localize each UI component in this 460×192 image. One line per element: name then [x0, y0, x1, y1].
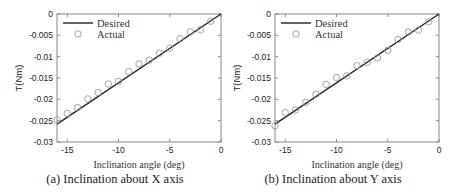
y-tick-label: -0.01	[252, 52, 272, 62]
actual-point	[126, 68, 132, 74]
y-tick-label: -0.005	[247, 30, 271, 40]
legend-label-desired: Desired	[315, 18, 348, 29]
x-tick-label: -15	[61, 145, 74, 155]
actual-point	[354, 62, 360, 68]
y-tick-label: 0	[48, 9, 53, 19]
chart-panel-y-axis: 0-0.005-0.01-0.015-0.02-0.025-0.03-15-10…	[218, 0, 448, 192]
y-tick-label: -0.015	[29, 73, 53, 83]
caption-y-axis: (b) Inclination about Y axis	[218, 172, 448, 187]
y-tick-label: 0	[266, 9, 271, 19]
y-tick-label: -0.01	[34, 52, 54, 62]
actual-point	[105, 81, 111, 87]
legend-label-actual: Actual	[315, 29, 343, 40]
x-tick-label: -15	[279, 145, 292, 155]
actual-point	[85, 96, 91, 102]
x-tick-label: -5	[384, 145, 392, 155]
desired-line	[57, 14, 221, 124]
legend-label-actual: Actual	[97, 29, 125, 40]
y-tick-label: -0.03	[252, 137, 272, 147]
y-tick-label: -0.02	[34, 94, 54, 104]
x-tick-label: 0	[437, 145, 442, 155]
legend-label-desired: Desired	[97, 18, 130, 29]
actual-point	[333, 74, 339, 80]
actual-point	[95, 89, 101, 95]
x-tick-label: -5	[166, 145, 174, 155]
legend: DesiredActual	[281, 18, 348, 41]
legend-circle-icon	[293, 31, 299, 37]
plot-frame	[57, 14, 221, 142]
y-tick-label: -0.025	[29, 116, 53, 126]
y-tick-label: -0.005	[29, 30, 53, 40]
plot-frame	[275, 14, 439, 142]
x-axis-label: Inclination angle (deg)	[311, 159, 402, 171]
y-tick-label: -0.03	[34, 137, 54, 147]
y-axis-label: T(Nm)	[13, 65, 24, 92]
chart-plot-x-axis: 0-0.005-0.01-0.015-0.02-0.025-0.03-15-10…	[0, 0, 230, 172]
x-tick-label: -10	[112, 145, 125, 155]
y-tick-label: -0.025	[247, 116, 271, 126]
actual-point	[64, 110, 70, 116]
y-tick-label: -0.02	[252, 94, 272, 104]
legend-circle-icon	[75, 31, 81, 37]
x-axis-label: Inclination angle (deg)	[93, 159, 184, 171]
actual-point	[323, 81, 329, 87]
actual-point	[136, 61, 142, 67]
actual-point	[282, 109, 288, 115]
caption-x-axis: (a) Inclination about X axis	[0, 172, 230, 187]
y-tick-label: -0.015	[247, 73, 271, 83]
legend: DesiredActual	[63, 18, 130, 41]
chart-plot-y-axis: 0-0.005-0.01-0.015-0.02-0.025-0.03-15-10…	[218, 0, 448, 172]
x-tick-label: -10	[330, 145, 343, 155]
y-axis-label: T(Nm)	[231, 65, 242, 92]
chart-panel-x-axis: 0-0.005-0.01-0.015-0.02-0.025-0.03-15-10…	[0, 0, 230, 192]
